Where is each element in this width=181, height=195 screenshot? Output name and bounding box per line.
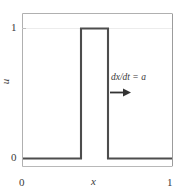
x-axis-tick-label-0: 0 bbox=[19, 177, 25, 188]
data-curve-square-pulse bbox=[23, 29, 172, 159]
axes-frame bbox=[23, 14, 173, 167]
plot-canvas bbox=[0, 0, 181, 195]
figure-container: 1 0 0 1 u x dx/dt = a bbox=[0, 0, 181, 195]
tick-marks bbox=[23, 29, 27, 159]
y-axis-tick-label-0: 0 bbox=[11, 152, 17, 163]
advection-annotation-label: dx/dt = a bbox=[111, 73, 146, 83]
y-axis-tick-label-1: 1 bbox=[11, 22, 17, 33]
x-axis-tick-label-1: 1 bbox=[167, 177, 173, 188]
advection-arrow-icon bbox=[110, 89, 131, 97]
x-axis-title: x bbox=[91, 176, 96, 187]
y-axis-title: u bbox=[0, 79, 11, 85]
